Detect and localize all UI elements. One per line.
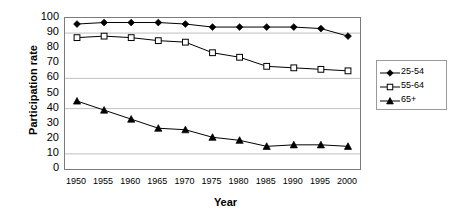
legend-marker-filled-triangle-icon	[379, 93, 401, 105]
datapoint-55-64-1965	[155, 38, 161, 44]
y-tick-50: 50	[33, 87, 59, 98]
legend-marker-open-square-icon	[379, 79, 401, 91]
datapoint-65+-1950	[73, 97, 80, 104]
y-tick-60: 60	[33, 71, 59, 82]
series-65+	[73, 97, 351, 149]
datapoint-55-64-1995	[318, 66, 324, 72]
y-tick-20: 20	[33, 132, 59, 143]
legend-item-25-54[interactable]: 25-54	[379, 64, 443, 78]
datapoint-25-54-1975	[209, 24, 216, 31]
y-tick-0: 0	[33, 162, 59, 173]
datapoint-55-64-1970	[183, 39, 189, 45]
series-55-64	[74, 33, 351, 74]
plot-area	[64, 17, 361, 170]
datapoint-25-54-1995	[318, 25, 325, 32]
datapoint-55-64-1950	[74, 35, 80, 41]
x-tick-2000: 2000	[330, 177, 364, 186]
y-tick-90: 90	[33, 26, 59, 37]
y-tick-100: 100	[33, 11, 59, 22]
datapoint-25-54-1985	[263, 24, 270, 31]
datapoint-25-54-2000	[345, 33, 352, 40]
legend-item-65+[interactable]: 65+	[379, 92, 443, 106]
chart-legend: 25-5455-6465+	[376, 60, 447, 110]
datapoint-65+-1955	[101, 107, 108, 114]
legend-label-25-54: 25-54	[401, 66, 424, 76]
datapoint-25-54-1950	[74, 21, 81, 28]
datapoint-55-64-1990	[291, 65, 297, 71]
datapoint-65+-1960	[128, 116, 135, 123]
y-tick-30: 30	[33, 117, 59, 128]
y-tick-10: 10	[33, 147, 59, 158]
datapoint-25-54-1990	[290, 24, 297, 31]
series-layer	[65, 18, 360, 169]
datapoint-25-54-1970	[182, 21, 189, 28]
datapoint-25-54-1955	[101, 19, 108, 26]
chart-container: Participation rate 100908070605040302010…	[0, 0, 451, 219]
datapoint-55-64-1980	[237, 54, 243, 60]
legend-label-55-64: 55-64	[401, 80, 424, 90]
legend-item-55-64[interactable]: 55-64	[379, 78, 443, 92]
datapoint-55-64-1955	[101, 33, 107, 39]
datapoint-55-64-2000	[345, 68, 351, 74]
legend-label-65+: 65+	[401, 94, 416, 104]
datapoint-55-64-1975	[210, 50, 216, 56]
datapoint-55-64-1985	[264, 63, 270, 69]
y-tick-40: 40	[33, 102, 59, 113]
datapoint-25-54-1965	[155, 19, 162, 26]
y-tick-70: 70	[33, 56, 59, 67]
y-tick-80: 80	[33, 41, 59, 52]
datapoint-55-64-1960	[128, 35, 134, 41]
legend-marker-filled-diamond-icon	[379, 65, 401, 77]
x-axis-title: Year	[0, 196, 451, 208]
datapoint-25-54-1960	[128, 19, 135, 26]
datapoint-25-54-1980	[236, 24, 243, 31]
